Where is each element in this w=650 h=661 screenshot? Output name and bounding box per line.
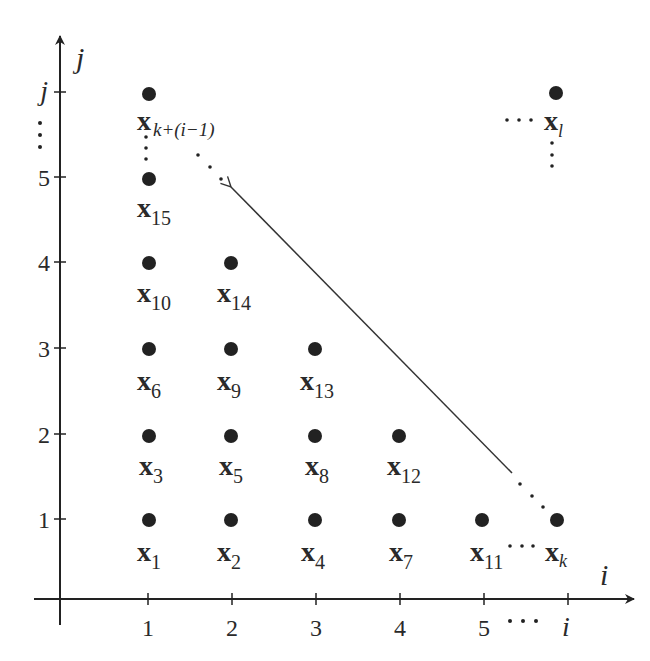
y-tick-5: 5 bbox=[38, 165, 50, 191]
point-x12 bbox=[392, 429, 406, 443]
y-tick-2: 2 bbox=[38, 422, 50, 448]
point-x2 bbox=[224, 513, 238, 527]
label-x4: x4 bbox=[301, 536, 325, 573]
label-x7: x7 bbox=[389, 536, 413, 573]
point-x15 bbox=[142, 172, 156, 186]
point-x10 bbox=[142, 256, 156, 270]
label-x15: x15 bbox=[137, 192, 171, 229]
label-x3: x3 bbox=[139, 450, 163, 487]
x-tick-labels: 1 2 3 4 5 i bbox=[142, 611, 570, 642]
point-x7 bbox=[392, 513, 406, 527]
diagonal-arrow bbox=[231, 187, 512, 473]
label-xk-plus-i-minus-1: xk+(i−1) bbox=[137, 105, 215, 141]
y-tick-1: 1 bbox=[38, 507, 50, 533]
point-x14 bbox=[224, 256, 238, 270]
label-x5: x5 bbox=[219, 450, 243, 487]
y-tick-4: 4 bbox=[38, 250, 50, 276]
label-x13: x13 bbox=[300, 365, 334, 402]
point-x3 bbox=[142, 429, 156, 443]
point-x9 bbox=[224, 342, 238, 356]
point-x11 bbox=[475, 513, 489, 527]
label-x6: x6 bbox=[137, 365, 161, 402]
label-x8: x8 bbox=[305, 450, 329, 487]
label-x14: x14 bbox=[217, 277, 251, 314]
point-x6 bbox=[142, 342, 156, 356]
label-xk: xk bbox=[545, 536, 568, 571]
point-x8 bbox=[308, 429, 322, 443]
label-x1: x1 bbox=[137, 536, 161, 573]
label-x2: x2 bbox=[217, 536, 241, 573]
point-x5 bbox=[224, 429, 238, 443]
point-x4 bbox=[308, 513, 322, 527]
x-tick-1: 1 bbox=[142, 615, 154, 641]
grid-ellipses bbox=[144, 118, 554, 548]
label-xl: xl bbox=[544, 105, 563, 141]
label-x11: x11 bbox=[470, 536, 503, 573]
point-x13 bbox=[308, 342, 322, 356]
y-tick-3: 3 bbox=[38, 336, 50, 362]
point-labels: x1 x2 x4 x7 x11 xk x3 x5 x8 x12 x6 x9 x1… bbox=[137, 105, 568, 573]
x-axis-label: i bbox=[600, 558, 608, 591]
x-tick-4: 4 bbox=[394, 615, 406, 641]
label-x10: x10 bbox=[137, 277, 171, 314]
y-tick-j: j bbox=[37, 75, 48, 106]
point-x1 bbox=[142, 513, 156, 527]
x-tick-2: 2 bbox=[226, 615, 238, 641]
label-x12: x12 bbox=[387, 450, 421, 487]
x-tick-i: i bbox=[562, 611, 570, 642]
enumeration-diagram: i j 1 2 3 4 5 i 1 2 3 4 5 j bbox=[0, 0, 650, 661]
y-axis-label: j bbox=[72, 41, 84, 74]
x-ellipsis bbox=[508, 619, 538, 623]
x-tick-5: 5 bbox=[478, 615, 490, 641]
label-x9: x9 bbox=[217, 365, 241, 402]
y-tick-labels: 1 2 3 4 5 j bbox=[37, 75, 50, 533]
point-xk bbox=[550, 513, 564, 527]
y-ellipsis bbox=[38, 121, 42, 149]
x-tick-3: 3 bbox=[310, 615, 322, 641]
point-xk-plus-i-minus-1 bbox=[142, 87, 156, 101]
point-xl bbox=[549, 86, 563, 100]
